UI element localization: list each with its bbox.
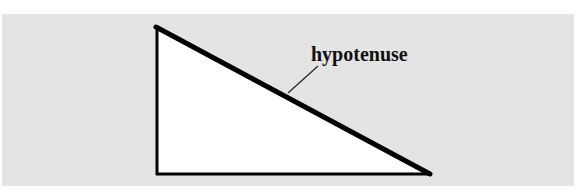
right-triangle-diagram <box>0 0 577 196</box>
hypotenuse-label: hypotenuse <box>311 44 408 64</box>
label-leader-line <box>288 66 318 93</box>
